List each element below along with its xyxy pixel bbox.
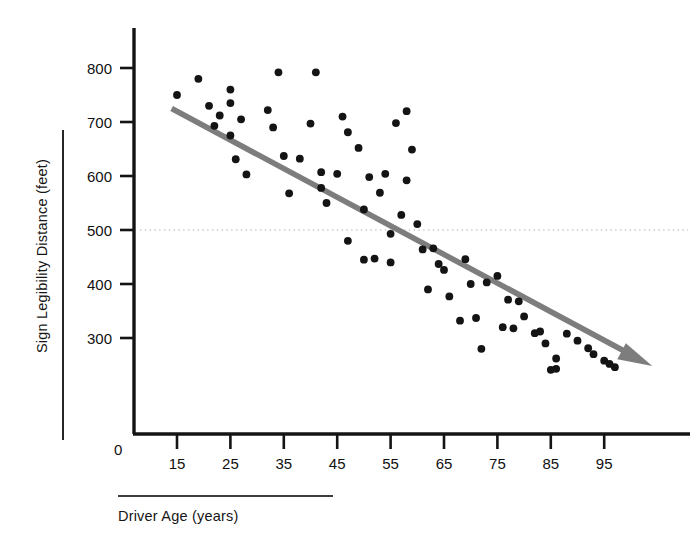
x-axis-tick-label: 95 xyxy=(596,455,613,472)
y-axis-tick-label: 500 xyxy=(58,222,112,239)
scatter-point xyxy=(494,272,502,280)
scatter-point xyxy=(611,363,619,371)
scatter-point xyxy=(445,293,453,301)
scatter-point xyxy=(429,244,437,252)
scatter-point xyxy=(552,355,560,363)
scatter-point xyxy=(371,255,379,263)
y-axis-ticks xyxy=(120,68,134,338)
scatter-point xyxy=(232,155,240,163)
scatter-point xyxy=(344,128,352,136)
x-axis-tick-label: 75 xyxy=(489,455,506,472)
x-axis-tick-label: 35 xyxy=(275,455,292,472)
scatter-point xyxy=(483,278,491,286)
scatter-point xyxy=(424,286,432,294)
scatter-point xyxy=(387,230,395,238)
x-axis-tick-label: 85 xyxy=(542,455,559,472)
scatter-point xyxy=(477,345,485,353)
scatter-point xyxy=(520,313,528,321)
x-axis-tick-label: 45 xyxy=(329,455,346,472)
x-axis-tick-label: 65 xyxy=(436,455,453,472)
scatter-point xyxy=(563,330,571,338)
scatter-point xyxy=(574,337,582,345)
y-axis-tick-label: 300 xyxy=(58,330,112,347)
scatter-point xyxy=(515,297,523,305)
scatter-point xyxy=(456,317,464,325)
scatter-point xyxy=(312,68,320,76)
scatter-point xyxy=(285,189,293,197)
x-axis-tick-label: 25 xyxy=(222,455,239,472)
y-axis-title: Sign Legibility Distance (feet) xyxy=(34,126,50,386)
scatter-point xyxy=(397,211,405,219)
scatter-point xyxy=(307,120,315,128)
scatter-point xyxy=(344,237,352,245)
scatter-point xyxy=(365,173,373,181)
scatter-point xyxy=(333,170,341,178)
scatter-point xyxy=(472,314,480,322)
scatter-point xyxy=(403,107,411,115)
scatter-point xyxy=(542,340,550,348)
scatter-point xyxy=(227,99,235,107)
scatter-point xyxy=(339,113,347,121)
y-axis-tick-label: 700 xyxy=(58,114,112,131)
y-axis-title-rule xyxy=(62,130,64,440)
scatter-point xyxy=(264,106,272,114)
scatter-point xyxy=(317,184,325,192)
scatter-chart-figure: 800700600500400300 152535455565758595 0 … xyxy=(0,0,698,542)
scatter-point xyxy=(440,266,448,274)
scatter-point xyxy=(269,124,277,132)
scatter-point xyxy=(194,75,202,83)
scatter-point xyxy=(590,350,598,358)
scatter-point xyxy=(381,170,389,178)
trendline-arrowhead xyxy=(617,343,652,366)
x-axis-title-rule xyxy=(118,495,333,497)
data-points-group xyxy=(173,68,619,373)
scatter-point xyxy=(552,365,560,373)
scatter-point xyxy=(296,155,304,163)
scatter-point xyxy=(360,256,368,264)
scatter-point xyxy=(227,132,235,140)
scatter-point xyxy=(323,199,331,207)
scatter-point xyxy=(227,86,235,94)
x-axis-title: Driver Age (years) xyxy=(118,508,238,524)
trendline-shaft xyxy=(172,109,638,359)
scatter-point xyxy=(173,91,181,99)
plot-canvas xyxy=(0,0,698,542)
scatter-point xyxy=(510,324,518,332)
scatter-point xyxy=(584,344,592,352)
scatter-point xyxy=(408,146,416,154)
y-axis-tick-label: 800 xyxy=(58,60,112,77)
scatter-point xyxy=(392,119,400,127)
y-axis-tick-label: 400 xyxy=(58,276,112,293)
scatter-point xyxy=(275,68,283,76)
x-axis-tick-label: 55 xyxy=(382,455,399,472)
scatter-point xyxy=(387,259,395,267)
scatter-point xyxy=(205,102,213,110)
y-axis-tick-label: 600 xyxy=(58,168,112,185)
scatter-point xyxy=(243,170,251,178)
scatter-point xyxy=(317,168,325,176)
scatter-point xyxy=(376,189,384,197)
scatter-point xyxy=(237,115,245,123)
scatter-point xyxy=(280,152,288,160)
scatter-point xyxy=(419,246,427,254)
scatter-point xyxy=(216,112,224,120)
scatter-point xyxy=(403,176,411,184)
scatter-point xyxy=(499,323,507,331)
scatter-point xyxy=(435,260,443,268)
scatter-point xyxy=(355,144,363,152)
scatter-point xyxy=(467,280,475,288)
scatter-point xyxy=(504,296,512,304)
scatter-point xyxy=(536,328,544,336)
scatter-point xyxy=(413,220,421,228)
x-axis-ticks xyxy=(177,434,604,449)
scatter-point xyxy=(461,255,469,263)
scatter-point xyxy=(360,206,368,214)
axis-origin-zero-label: 0 xyxy=(114,441,122,458)
scatter-point xyxy=(210,122,218,130)
axes-group xyxy=(133,28,690,434)
x-axis-tick-label: 15 xyxy=(169,455,186,472)
